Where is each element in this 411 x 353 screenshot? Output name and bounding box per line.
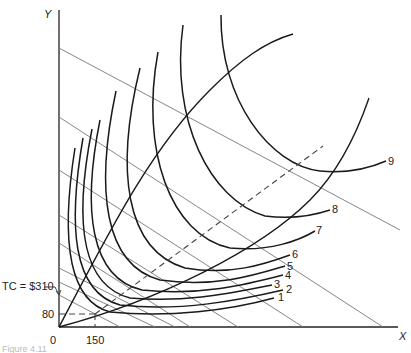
upper-ridge-line xyxy=(59,34,293,327)
figure-caption: Figure 4.11 xyxy=(2,344,47,353)
x-axis-label: X xyxy=(398,330,407,342)
isoquant-3 xyxy=(83,129,272,299)
label-3: 3 xyxy=(274,278,280,290)
isoquant-1 xyxy=(68,148,274,314)
isoquant-5 xyxy=(106,91,285,282)
production-diagram: Y X 0 TC = $310 80 150 1 2 3 4 5 6 7 8 9… xyxy=(0,0,411,353)
label-6: 6 xyxy=(292,248,298,260)
y-tick-80: 80 xyxy=(42,308,54,320)
x-tick-150: 150 xyxy=(86,334,104,346)
isocost-lines xyxy=(59,48,400,327)
label-1: 1 xyxy=(278,291,284,303)
origin-label: 0 xyxy=(50,334,56,346)
label-2: 2 xyxy=(286,283,292,295)
tc-label: TC = $310 xyxy=(2,280,54,292)
isoquant-9 xyxy=(221,15,386,172)
label-9: 9 xyxy=(388,155,394,167)
isoquant-8 xyxy=(181,25,330,217)
y-axis-label: Y xyxy=(44,8,52,20)
isoquant-labels: 1 2 3 4 5 6 7 8 9 xyxy=(274,155,394,303)
label-7: 7 xyxy=(316,224,322,236)
label-8: 8 xyxy=(332,203,338,215)
isoquant-7 xyxy=(153,52,315,249)
label-5: 5 xyxy=(287,260,293,272)
